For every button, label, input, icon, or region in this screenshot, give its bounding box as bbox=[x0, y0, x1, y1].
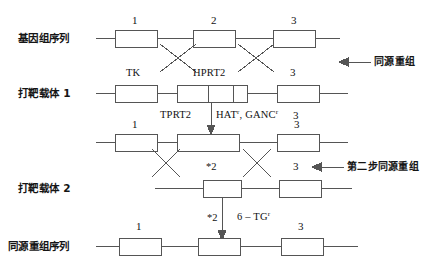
selection-6tg-text: 6 – TG bbox=[237, 211, 268, 222]
row-genomic-sequence-graphics bbox=[96, 30, 340, 47]
row-recombined-sequence-graphics bbox=[96, 238, 358, 255]
box-number-recombinant-1: 1 bbox=[132, 119, 138, 130]
gene-label-3: 3 bbox=[290, 67, 296, 78]
selection-label-hat: HATr, GANCr bbox=[216, 110, 278, 121]
selection-6tg-superscript: r bbox=[268, 210, 271, 218]
pointer-arrow-homologous-recombination bbox=[339, 58, 371, 66]
row-label-recombined-sequence: 同源重组序列 bbox=[8, 241, 70, 252]
row-label-targeting-vector-1: 打靶载体 1 bbox=[18, 88, 71, 99]
box-number-genomic-1: 1 bbox=[132, 15, 138, 26]
box-number-final-3: 3 bbox=[298, 221, 304, 232]
selection-label-6tg: 6 – TGr bbox=[237, 212, 270, 223]
box-number-final-1: 1 bbox=[136, 221, 142, 232]
box-number-genomic-3: 3 bbox=[291, 15, 297, 26]
selection-arrow-first-step bbox=[207, 102, 215, 134]
row-first-recombinant-graphics bbox=[96, 134, 348, 151]
box-number-recombinant-3: 3 bbox=[294, 119, 300, 130]
annotation-homologous-recombination: 同源重组 bbox=[374, 57, 415, 67]
box-number-genomic-2: 2 bbox=[211, 15, 217, 26]
selection-hat-text: HAT bbox=[216, 109, 237, 120]
annotation-second-step-recombination: 第二步同源重组 bbox=[347, 162, 419, 172]
star-label-recombined: *2 bbox=[207, 213, 218, 224]
row-label-genomic-sequence: 基因组序列 bbox=[18, 33, 70, 44]
row-targeting-vector-1-graphics bbox=[96, 85, 348, 102]
selection-label-tprt2: TPRT2 bbox=[160, 110, 191, 121]
selection-arrow-second-step bbox=[218, 197, 226, 240]
box-number-vector2-star2: *2 bbox=[206, 162, 217, 173]
row-targeting-vector-2-graphics bbox=[155, 180, 352, 197]
gene-label-tk: TK bbox=[126, 68, 140, 79]
gene-label-hprt2: HPRT2 bbox=[193, 68, 225, 79]
selection-ganc-superscript: r bbox=[276, 108, 279, 116]
box-number-vector2-3: 3 bbox=[293, 161, 299, 172]
gene-targeting-diagram: 基因组序列 打靶载体 1 打靶载体 2 同源重组序列 1 2 3 TK HPRT… bbox=[0, 0, 431, 269]
selection-ganc-text: GANC bbox=[245, 109, 276, 120]
pointer-arrow-second-step-recombination bbox=[312, 163, 344, 171]
row-label-targeting-vector-2: 打靶载体 2 bbox=[18, 183, 71, 194]
